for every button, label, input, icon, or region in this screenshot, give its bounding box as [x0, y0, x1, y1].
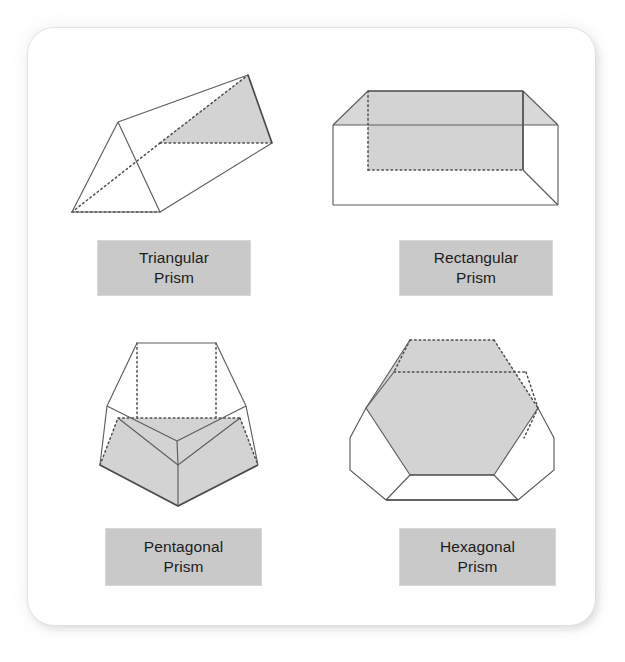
prism-cell-rectangular: Rectangular Prism [310, 0, 625, 310]
triangular-prism-drawing [0, 0, 310, 240]
label-rectangular-prism: Rectangular Prism [400, 241, 552, 295]
label-line-1: Triangular [139, 248, 209, 268]
label-line-2: Prism [456, 268, 496, 288]
prism-cell-pentagonal: Pentagonal Prism [0, 310, 310, 662]
label-line-2: Prism [457, 557, 497, 577]
prism-cell-triangular: Triangular Prism [0, 0, 310, 310]
label-triangular-prism: Triangular Prism [98, 241, 250, 295]
label-line-1: Pentagonal [144, 537, 223, 557]
label-line-1: Hexagonal [440, 537, 515, 557]
pentagonal-prism-drawing [0, 310, 310, 520]
label-pentagonal-prism: Pentagonal Prism [106, 529, 261, 585]
label-line-2: Prism [163, 557, 203, 577]
label-line-1: Rectangular [434, 248, 519, 268]
hexagonal-prism-drawing [310, 310, 625, 520]
label-line-2: Prism [154, 268, 194, 288]
prism-grid: Triangular Prism [0, 0, 625, 662]
rectangular-prism-drawing [310, 0, 625, 240]
label-hexagonal-prism: Hexagonal Prism [400, 529, 555, 585]
page-root: Triangular Prism [0, 0, 625, 662]
prism-cell-hexagonal: Hexagonal Prism [310, 310, 625, 662]
